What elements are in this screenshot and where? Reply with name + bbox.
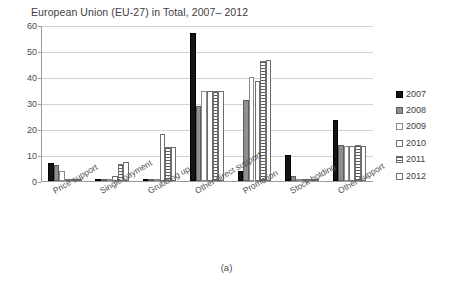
y-tick-mark-0 bbox=[38, 182, 41, 183]
legend-swatch-2007 bbox=[396, 91, 403, 98]
y-tick-mark-40 bbox=[38, 78, 41, 79]
bar-group bbox=[190, 26, 224, 181]
bar-group bbox=[95, 26, 129, 181]
figure-container: European Union (EU-27) in Total, 2007– 2… bbox=[0, 0, 453, 288]
plot-area bbox=[41, 26, 373, 182]
y-tick-label-0: 0 bbox=[13, 177, 37, 187]
legend-label-2007: 2007 bbox=[406, 90, 426, 99]
legend-swatch-2009 bbox=[396, 123, 403, 130]
legend-swatch-2008 bbox=[396, 107, 403, 114]
bar-group bbox=[48, 26, 82, 181]
chart-title: European Union (EU-27) in Total, 2007– 2… bbox=[31, 6, 248, 18]
y-tick-label-50: 50 bbox=[13, 47, 37, 57]
legend-item-2007[interactable]: 2007 bbox=[396, 86, 452, 102]
legend-item-2008[interactable]: 2008 bbox=[396, 102, 452, 118]
legend-label-2010: 2010 bbox=[406, 139, 426, 148]
legend-label-2011: 2011 bbox=[406, 155, 425, 164]
legend-swatch-2011 bbox=[396, 156, 403, 163]
legend-label-2012: 2012 bbox=[406, 172, 426, 181]
legend-item-2009[interactable]: 2009 bbox=[396, 119, 452, 135]
bar-group bbox=[333, 26, 367, 181]
legend-item-2011[interactable]: 2011 bbox=[396, 152, 452, 168]
bars-layer bbox=[42, 26, 373, 181]
y-tick-mark-30 bbox=[38, 104, 41, 105]
y-tick-label-20: 20 bbox=[13, 125, 37, 135]
legend-swatch-2010 bbox=[396, 140, 403, 147]
legend: 200720082009201020112012 bbox=[396, 86, 452, 184]
y-tick-mark-10 bbox=[38, 156, 41, 157]
legend-label-2009: 2009 bbox=[406, 122, 426, 131]
legend-item-2012[interactable]: 2012 bbox=[396, 168, 452, 184]
y-tick-label-10: 10 bbox=[13, 151, 37, 161]
y-tick-label-40: 40 bbox=[13, 73, 37, 83]
figure-caption: (a) bbox=[0, 262, 453, 273]
y-tick-mark-20 bbox=[38, 130, 41, 131]
legend-label-2008: 2008 bbox=[406, 106, 426, 115]
bar-2012 bbox=[266, 60, 272, 181]
legend-item-2010[interactable]: 2010 bbox=[396, 135, 452, 151]
bar-2012 bbox=[218, 91, 224, 181]
legend-swatch-2012 bbox=[396, 173, 403, 180]
y-tick-label-30: 30 bbox=[13, 99, 37, 109]
y-tick-mark-50 bbox=[38, 52, 41, 53]
y-tick-mark-60 bbox=[38, 26, 41, 27]
bar-group bbox=[285, 26, 319, 181]
y-tick-label-60: 60 bbox=[13, 21, 37, 31]
